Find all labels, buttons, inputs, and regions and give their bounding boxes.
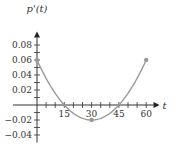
y-tick-label: −0.04 <box>4 130 32 140</box>
y-axis-label: p'(t) <box>27 3 48 14</box>
data-point-marker <box>35 58 39 62</box>
x-tick-label: 60 <box>140 109 152 119</box>
y-tick-label: 0.02 <box>12 85 32 95</box>
data-point-marker <box>144 58 148 62</box>
y-tick-label: 0.04 <box>12 70 32 80</box>
chart: 153045600.080.060.040.02−0.02−0.04tp'(t) <box>0 0 183 159</box>
y-tick-label: 0.06 <box>12 55 32 65</box>
x-tick-label: 45 <box>113 109 125 119</box>
x-tick-label: 30 <box>86 109 98 119</box>
x-axis-arrow-icon <box>153 102 159 108</box>
y-tick-label: 0.08 <box>12 40 32 50</box>
x-axis-label: t <box>162 100 167 111</box>
y-axis-arrow-icon <box>34 32 40 38</box>
axes <box>13 32 159 143</box>
x-tick-label: 15 <box>59 109 71 119</box>
y-tick-label: −0.02 <box>4 115 32 125</box>
